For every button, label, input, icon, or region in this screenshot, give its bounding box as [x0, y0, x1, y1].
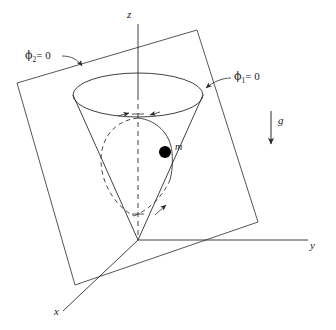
- phi2-constraint-label: ϕ2= 0: [25, 50, 51, 64]
- cone-constraint-figure: z y x m g ϕ2= 0 ϕ1= 0: [0, 0, 336, 330]
- phi2-equation: = 0: [36, 49, 50, 61]
- z-axis-label: z: [127, 9, 131, 20]
- gravity-label: g: [278, 115, 284, 126]
- x-axis-label: x: [54, 306, 59, 317]
- y-axis-label: y: [310, 240, 315, 251]
- particle-mass-dot: [159, 146, 171, 158]
- phi1-symbol: ϕ: [234, 70, 242, 83]
- mass-label: m: [175, 142, 182, 152]
- inclined-plane: [17, 30, 258, 285]
- phi1-equation: = 0: [245, 70, 259, 82]
- phi1-constraint-label: ϕ1= 0: [234, 71, 260, 85]
- phi2-symbol: ϕ: [25, 49, 33, 62]
